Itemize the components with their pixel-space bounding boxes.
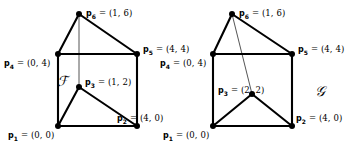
vertex-coords: = (1, 2): [95, 77, 131, 87]
edge-p1-p3: [213, 94, 252, 126]
vertex-label-left-p6: p6 = (1, 6): [86, 9, 132, 20]
edge-p1-p3: [58, 87, 79, 126]
vertex-coords: = (0, 4): [14, 58, 50, 68]
vertex-label-left-p1: p1 = (0, 0): [8, 131, 54, 142]
vertex-coords: = (4, 4): [153, 44, 189, 54]
edge-p5-p6: [79, 14, 137, 54]
vertex-label-right-p3: p3 = (2, 2): [218, 86, 264, 97]
vertex-coords: = (0, 4): [170, 58, 206, 68]
vertex-coords: = (4, 4): [308, 44, 344, 54]
vertex-label-left-p5: p5 = (4, 4): [143, 45, 189, 56]
vertex-label-right-p4: p4 = (0, 4): [160, 59, 206, 70]
vertex-label-left-p2: p2 = (4, 0): [117, 114, 163, 125]
vertex-right-p2: [289, 123, 295, 129]
vertex-left-p5: [134, 51, 140, 57]
figure-canvas: p1 = (0, 0)p2 = (4, 0)p3 = (1, 2)p4 = (0…: [0, 0, 356, 153]
vertex-label-right-p6: p6 = (1, 6): [239, 9, 285, 20]
vertex-label-right-p1: p1 = (0, 0): [163, 131, 209, 142]
vertex-right-p5: [289, 51, 295, 57]
edge-p6-p4: [213, 14, 232, 54]
vertex-label-right-p5: p5 = (4, 4): [298, 45, 344, 56]
set-name-F: ℱ: [57, 73, 68, 89]
vertex-right-p4: [210, 51, 216, 57]
vertex-label-left-p4: p4 = (0, 4): [4, 59, 50, 70]
edge-p3-p2: [252, 94, 292, 126]
vertex-coords: = (2, 2): [228, 85, 264, 95]
vertex-label-left-p3: p3 = (1, 2): [85, 78, 131, 89]
vertex-coords: = (4, 0): [127, 113, 163, 123]
vertex-coords: = (1, 6): [249, 8, 285, 18]
set-name-G: 𝒢: [315, 83, 325, 100]
vertex-right-p1: [210, 123, 216, 129]
vertex-left-p3: [76, 84, 82, 90]
vertex-label-right-p2: p2 = (4, 0): [296, 114, 342, 125]
vertex-left-p4: [55, 51, 61, 57]
edge-p6-p4: [58, 14, 79, 54]
vertex-coords: = (0, 0): [173, 130, 209, 140]
vertex-right-p6: [229, 11, 235, 17]
vertex-coords: = (4, 0): [306, 113, 342, 123]
vertex-coords: = (1, 6): [96, 8, 132, 18]
vertex-left-p6: [76, 11, 82, 17]
vertex-left-p1: [55, 123, 61, 129]
vertex-coords: = (0, 0): [18, 130, 54, 140]
